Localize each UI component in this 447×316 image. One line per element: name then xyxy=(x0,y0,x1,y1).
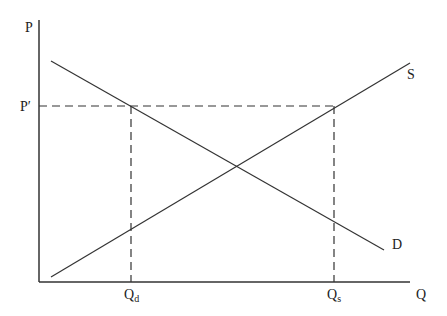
demand-label: D xyxy=(392,238,402,252)
quantity-supplied-label: Qs xyxy=(327,288,341,302)
y-axis-label: P xyxy=(25,21,33,35)
qd-subscript: d xyxy=(134,293,139,304)
price-level-label: P′ xyxy=(20,100,31,114)
qd-base: Q xyxy=(124,287,134,302)
qs-base: Q xyxy=(327,287,337,302)
demand-curve xyxy=(51,61,384,250)
x-axis-label: Q xyxy=(416,288,426,302)
supply-demand-diagram xyxy=(0,0,447,316)
quantity-demanded-label: Qd xyxy=(124,288,139,302)
qs-subscript: s xyxy=(337,293,341,304)
supply-label: S xyxy=(407,68,415,82)
supply-curve xyxy=(51,63,410,277)
